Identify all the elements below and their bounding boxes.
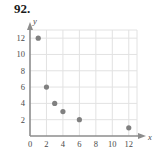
x-axis-label: x — [147, 132, 152, 142]
x-tick-label: 12 — [125, 139, 134, 149]
y-tick-label: 12 — [17, 33, 26, 43]
scatter-plot: 024681012 24681012 x y — [0, 18, 160, 159]
y-axis-label: y — [32, 18, 37, 26]
data-points-group — [36, 36, 132, 131]
gridlines-group — [30, 30, 137, 136]
x-axis-arrow-icon — [138, 133, 146, 139]
plot-svg: 024681012 24681012 x y — [0, 18, 160, 159]
y-tick-labels-group: 24681012 — [17, 33, 26, 125]
figure-container: 92. 024681012 24681012 x y — [0, 0, 160, 159]
problem-number-label: 92. — [14, 1, 30, 17]
data-point — [77, 117, 82, 122]
y-tick-label: 2 — [21, 115, 25, 125]
y-tick-label: 6 — [21, 82, 25, 92]
axes-group — [27, 22, 146, 139]
x-tick-label: 10 — [108, 139, 117, 149]
x-tick-label: 6 — [77, 139, 81, 149]
data-point — [60, 109, 65, 114]
data-point — [44, 84, 49, 89]
x-tick-label: 4 — [61, 139, 66, 149]
data-point — [126, 125, 131, 130]
data-point — [52, 101, 57, 106]
y-axis-arrow-icon — [27, 22, 33, 30]
y-tick-label: 8 — [21, 66, 25, 76]
x-tick-label: 8 — [94, 139, 98, 149]
x-tick-labels-group: 024681012 — [28, 139, 133, 149]
y-tick-label: 4 — [21, 98, 26, 108]
x-tick-label: 2 — [44, 139, 48, 149]
y-tick-label: 10 — [17, 49, 26, 59]
data-point — [36, 36, 41, 41]
x-tick-label: 0 — [28, 139, 32, 149]
